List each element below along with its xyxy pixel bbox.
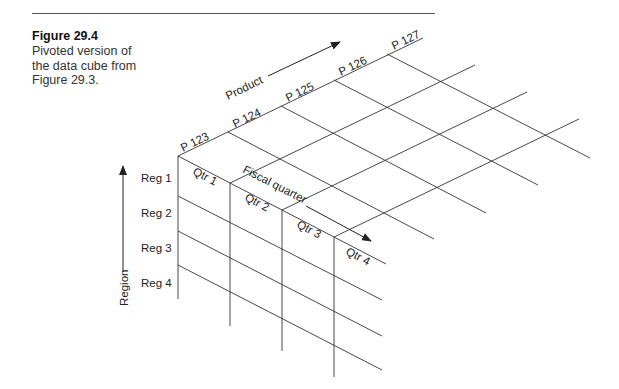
region-label-reg4: Reg 4 [141,277,172,289]
region-line [178,265,382,370]
top-face-line [282,92,527,210]
quarter-label-qtr4: Qtr 4 [344,245,373,268]
top-face-line [230,65,475,183]
quarter-label-qtr1: Qtr 1 [191,165,219,187]
top-face-line [228,132,434,239]
product-label-p126: P 126 [337,54,369,78]
region-axis-label: Region [118,270,130,306]
product-axis-label: Product [224,73,266,102]
top-face-line [281,106,486,213]
data-cube-diagram: Product P 123 P 124 P 125 P 126 P 127 Fi… [0,0,619,389]
region-label-reg3: Reg 3 [141,242,172,254]
top-face-line [334,80,538,185]
product-label-p125: P 125 [284,80,316,104]
product-axis-arrow [268,42,340,76]
region-label-reg1: Reg 1 [141,172,172,184]
top-face-line [387,54,590,158]
product-label-p123: P 123 [179,130,211,154]
region-label-reg2: Reg 2 [141,207,172,219]
product-label-p127: P 127 [390,28,422,52]
quarter-label-qtr3: Qtr 3 [295,218,323,240]
product-label-p124: P 124 [231,106,264,130]
top-face-line [334,119,579,237]
quarter-label-qtr2: Qtr 2 [243,191,271,213]
